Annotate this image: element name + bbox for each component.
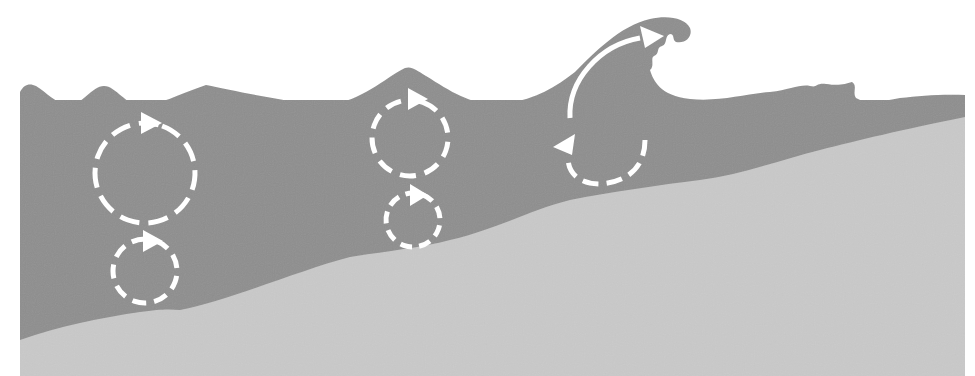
wave-orbital-motion-diagram: [0, 0, 975, 376]
diagram-canvas: [0, 0, 975, 376]
